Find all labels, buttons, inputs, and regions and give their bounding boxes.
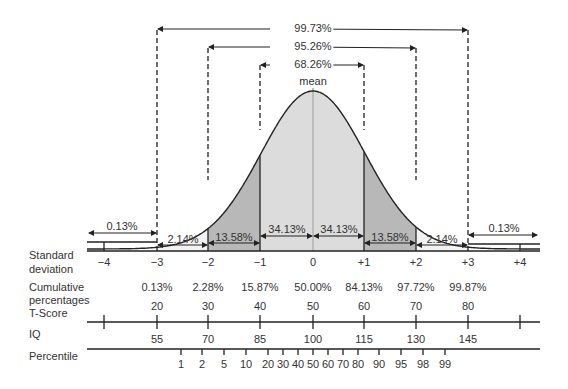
iq-value: 85 [254,333,266,346]
percentile-value: 20 [262,358,274,371]
normal-distribution-chart [0,0,568,389]
cumulative-value: 99.87% [449,281,486,294]
band-label: 13.58% [371,231,408,244]
iq-value: 130 [407,333,425,346]
percentile-value: 70 [337,358,349,371]
percentile-value: 10 [240,358,252,371]
percentile-value: 40 [292,358,304,371]
band-label: 2.14% [426,233,457,246]
row-label-cum-2: percentages [29,294,90,307]
row-label-cum-1: Cumulative [29,281,84,294]
sd-tick-label: 0 [310,256,316,269]
tscore-iq-axis [87,315,540,329]
percentile-value: 95 [395,358,407,371]
cumulative-value: 50.00% [294,281,331,294]
iq-value: 145 [459,333,477,346]
span-label-95-26: 95.26% [292,40,333,53]
row-label-sd-2: deviation [29,263,73,276]
percentile-value: 50 [307,358,319,371]
tscore-value: 20 [151,300,163,313]
tscore-value: 60 [358,300,370,313]
sd-tick-label: −2 [202,256,215,269]
sd-tick-label: −4 [98,256,111,269]
cumulative-value: 84.13% [345,281,382,294]
band-label: 34.13% [320,223,357,236]
span-label-68-26: 68.26% [292,58,333,71]
sd-tick-label: −3 [151,256,164,269]
cumulative-value: 15.87% [241,281,278,294]
percentile-value: 5 [221,358,227,371]
iq-value: 55 [151,333,163,346]
tscore-value: 80 [462,300,474,313]
percentile-value: 30 [277,358,289,371]
span-label-99-73: 99.73% [292,22,333,35]
percentile-value: 1 [178,358,184,371]
tscore-value: 40 [254,300,266,313]
tscore-value: 30 [202,300,214,313]
sd-tick-label: +2 [410,256,423,269]
sd-tick-label: −1 [254,256,267,269]
cumulative-value: 0.13% [141,281,172,294]
tscore-value: 70 [410,300,422,313]
percentile-value: 60 [322,358,334,371]
row-label-iq: IQ [29,328,41,341]
sd-tick-label: +3 [462,256,475,269]
tscore-value: 50 [307,300,319,313]
percentile-value: 2 [199,358,205,371]
percentile-value: 98 [417,358,429,371]
iq-value: 115 [355,333,373,346]
cumulative-value: 97.72% [397,281,434,294]
row-label-percentile: Percentile [29,350,78,363]
percentile-axis [87,349,540,355]
band-label: 13.58% [215,231,252,244]
iq-value: 100 [304,333,322,346]
percentile-value: 90 [373,358,385,371]
band-label: 0.13% [106,220,137,233]
cumulative-value: 2.28% [192,281,223,294]
band-label: 34.13% [268,223,305,236]
percentile-value: 99 [439,358,451,371]
iq-value: 70 [202,333,214,346]
band-label: 2.14% [167,233,198,246]
row-label-sd-1: Standard [29,249,74,262]
percentile-value: 80 [352,358,364,371]
sd-tick-label: +4 [514,256,527,269]
mean-label: mean [299,75,327,88]
band-label: 0.13% [488,222,519,235]
sd-tick-label: +1 [358,256,371,269]
row-label-tscore: T-Score [29,307,68,320]
